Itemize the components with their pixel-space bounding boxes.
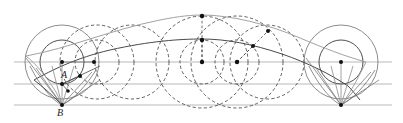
right-ray-2 [316,68,341,105]
inner-dark-arc [34,39,348,86]
marked-points-group [60,14,343,107]
dot-curve-right-upper [266,29,270,33]
figure-container: A B [0,0,403,123]
dot-point-a [78,74,82,78]
dot-axis-202 [200,60,204,64]
outer-gray-arc [26,15,366,62]
left-ray-2 [36,68,62,105]
right-circle-group [304,25,378,105]
point-label-B: B [57,108,63,118]
dot-point-a2 [60,82,64,86]
dot-right-cusp [339,103,343,107]
right-ray-4 [341,66,353,105]
inner-dark-arc-group [34,39,360,105]
spoke-right-lower [237,46,253,62]
dot-curve-mid [200,38,204,42]
dot-apex-top [200,14,204,18]
dot-below-a [66,89,70,93]
point-label-A: A [61,70,67,80]
dot-axis-237 [235,60,239,64]
dot-right-center [339,60,343,64]
dot-left-center [60,60,64,64]
left-cusp-rays [26,58,100,105]
dot-curve-right-lower [251,44,255,48]
geometry-diagram-canvas [0,0,403,123]
right-cusp-rays [306,58,379,105]
dot-axis-94 [92,60,96,64]
right-ray-1 [306,58,341,105]
